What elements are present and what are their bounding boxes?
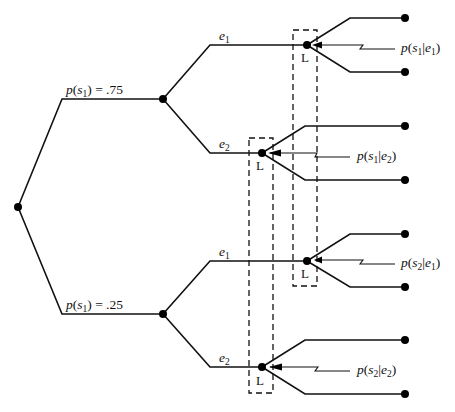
- root-node: [14, 203, 22, 211]
- info-set-label: L: [301, 50, 309, 65]
- decision-node-lower-e1: [303, 257, 311, 265]
- terminal-node: [401, 336, 409, 344]
- experiment-label-upper-e1: e1: [219, 28, 230, 45]
- info-set-label: L: [301, 266, 309, 281]
- terminal-node: [401, 283, 409, 291]
- branch-upper-prior: [18, 99, 163, 207]
- info-set-label: L: [256, 373, 264, 388]
- info-set-box-e2: [249, 138, 273, 393]
- decision-node-upper-e2: [258, 149, 266, 157]
- experiment-label-lower-e1: e1: [219, 244, 230, 261]
- terminal-node: [401, 230, 409, 238]
- callout-arrow-s2-e1: [314, 257, 395, 265]
- posterior-label-s2-e1: p(s2|e1): [400, 255, 440, 272]
- callout-arrow-s2-e2: [269, 364, 350, 372]
- info-set-box-e1: [293, 30, 317, 286]
- terminal-node: [401, 122, 409, 130]
- outcome-branch: [307, 261, 405, 287]
- prior-label-upper: p(s1) = .75: [65, 82, 123, 99]
- chance-node-lower: [159, 310, 167, 318]
- decision-node-upper-e1: [303, 41, 311, 49]
- terminal-node: [401, 14, 409, 22]
- terminal-node: [401, 68, 409, 76]
- posterior-label-s1-e2: p(s1|e2): [356, 148, 396, 165]
- branch-upper-e2: [163, 99, 262, 153]
- experiment-label-lower-e2: e2: [219, 350, 230, 367]
- branch-upper-e1: [163, 45, 307, 99]
- decision-tree-diagram: p(s1) = .75 p(s1) = .25 e1 e2 e1 e2 L L …: [0, 0, 455, 412]
- decision-node-lower-e2: [258, 363, 266, 371]
- posterior-label-s2-e2: p(s2|e2): [356, 362, 396, 379]
- branch-lower-e2: [163, 314, 262, 367]
- terminal-node: [401, 176, 409, 184]
- callout-arrow-s1-e2: [268, 150, 350, 158]
- posterior-label-s1-e1: p(s1|e1): [400, 40, 440, 57]
- experiment-label-upper-e2: e2: [219, 136, 230, 153]
- chance-node-upper: [159, 95, 167, 103]
- prior-label-lower: p(s1) = .25: [65, 297, 123, 314]
- callout-arrow-s1-e1: [312, 42, 395, 50]
- info-set-label: L: [256, 158, 264, 173]
- terminal-node: [401, 390, 409, 398]
- branch-lower-e1: [163, 261, 307, 314]
- outcome-branch: [307, 18, 405, 45]
